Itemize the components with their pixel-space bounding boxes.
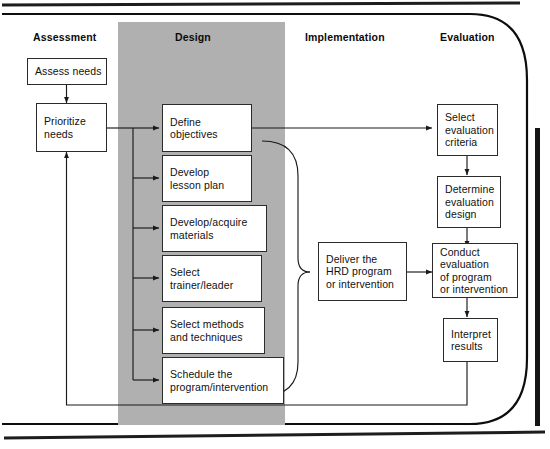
node-line: or intervention	[440, 283, 511, 295]
node-line: evaluation	[445, 124, 491, 136]
node-line: Determine	[445, 183, 494, 195]
node-schedule-program[interactable]: Schedule the program/intervention	[162, 357, 284, 404]
node-conduct-evaluation[interactable]: Conduct evaluation of program or interve…	[432, 243, 518, 298]
node-line: Select	[170, 266, 255, 278]
page-bottom-rule	[4, 432, 545, 438]
node-line: results	[451, 340, 491, 352]
node-line: Prioritize	[44, 115, 100, 127]
node-line: objectives	[170, 128, 245, 140]
node-line: materials	[170, 229, 260, 241]
node-line: Define	[170, 116, 245, 128]
node-line: Select methods	[170, 318, 258, 330]
node-line: criteria	[445, 136, 491, 148]
node-select-methods[interactable]: Select methods and techniques	[162, 307, 265, 354]
phase-label-implementation: Implementation	[305, 31, 385, 43]
node-line: Deliver the	[326, 253, 400, 265]
node-develop-materials[interactable]: Develop/acquire materials	[162, 205, 267, 252]
node-line: program/intervention	[170, 381, 277, 393]
node-line: evaluation	[445, 196, 494, 208]
node-line: evaluation	[440, 258, 511, 270]
node-select-criteria[interactable]: Select evaluation criteria	[437, 104, 498, 156]
node-line: Schedule the	[170, 368, 277, 380]
node-select-trainer[interactable]: Select trainer/leader	[162, 255, 262, 302]
node-assess-needs[interactable]: Assess needs	[27, 58, 107, 85]
node-line: lesson plan	[170, 179, 245, 191]
phase-label-design: Design	[175, 31, 211, 43]
node-deliver-program[interactable]: Deliver the HRD program or intervention	[318, 242, 407, 301]
node-line: Interpret	[451, 328, 491, 340]
node-line: needs	[44, 128, 100, 140]
node-line: Assess needs	[35, 65, 100, 77]
phase-label-assessment: Assessment	[33, 31, 96, 43]
phase-label-evaluation: Evaluation	[440, 31, 495, 43]
page-top-rule	[2, 3, 520, 5]
node-line: of program	[440, 271, 511, 283]
node-line: Select	[445, 111, 491, 123]
node-prioritize-needs[interactable]: Prioritize needs	[36, 103, 107, 152]
page-edge-bar	[535, 128, 540, 426]
node-interpret-results[interactable]: Interpret results	[443, 318, 498, 362]
diagram-canvas: Assessment Design Implementation Evaluat…	[0, 0, 550, 449]
node-determine-design[interactable]: Determine evaluation design	[437, 176, 501, 228]
node-line: or intervention	[326, 278, 400, 290]
node-line: design	[445, 208, 494, 220]
node-line: Conduct	[440, 246, 511, 258]
node-line: Develop/acquire	[170, 216, 260, 228]
node-line: HRD program	[326, 265, 400, 277]
node-line: Develop	[170, 166, 245, 178]
node-line: trainer/leader	[170, 279, 255, 291]
node-define-objectives[interactable]: Define objectives	[162, 104, 252, 152]
node-develop-lesson-plan[interactable]: Develop lesson plan	[162, 155, 252, 202]
node-line: and techniques	[170, 331, 258, 343]
